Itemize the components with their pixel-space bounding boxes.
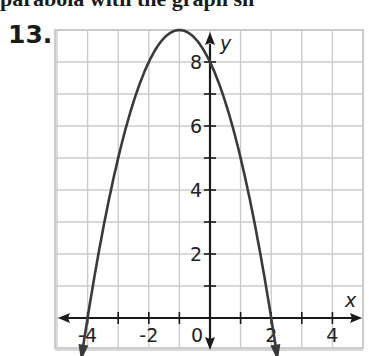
y-tick-label: 4: [190, 179, 202, 201]
y-tick-label: 8: [190, 51, 202, 73]
y-tick-label: 6: [190, 115, 202, 137]
x-tick-label: 4: [326, 324, 338, 346]
y-tick-label: 2: [190, 243, 202, 265]
axes: [58, 32, 362, 350]
x-tick-label: -2: [139, 324, 158, 346]
x-axis-label: x: [344, 289, 357, 311]
y-axis-label: y: [219, 32, 232, 54]
parabola-chart: -4-20242468xy: [0, 0, 369, 356]
x-tick-label: 0: [191, 324, 203, 346]
x-tick-label: -4: [78, 324, 97, 346]
